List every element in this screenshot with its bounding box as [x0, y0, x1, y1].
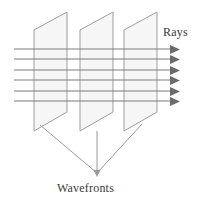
leader-line-plane-1 [40, 125, 97, 173]
wavefront-plane-2 [80, 12, 113, 131]
rays-label: Rays [163, 25, 188, 40]
ray-5-arrowhead [170, 87, 180, 96]
wavefront-diagram-figure: Rays Wavefronts [0, 0, 201, 203]
wavefront-plane-1 [34, 12, 67, 131]
ray-6-arrowhead [170, 97, 180, 106]
leader-arrowhead-down [94, 170, 101, 177]
ray-4-arrowhead [170, 76, 180, 85]
ray-3-arrowhead [170, 66, 180, 75]
wavefronts-label: Wavefronts [57, 181, 114, 196]
leader-line-plane-3 [97, 124, 142, 173]
wavefront-plane-3 [124, 12, 157, 131]
wavefront-planes-group [34, 12, 157, 131]
leader-lines-group [40, 124, 142, 177]
ray-1-arrowhead [170, 45, 180, 54]
ray-2-arrowhead [170, 55, 180, 64]
